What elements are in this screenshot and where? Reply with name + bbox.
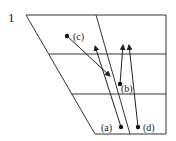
label-d: (d) <box>143 122 155 134</box>
arrow-b <box>120 45 123 84</box>
point-c <box>65 34 69 38</box>
figure-number: 1 <box>8 10 15 25</box>
point-a <box>119 125 123 129</box>
label-a: (a) <box>101 122 112 134</box>
point-d <box>136 125 140 129</box>
label-b: (b) <box>121 83 133 95</box>
diagram-canvas: 1 (c) (b) (a) (d) <box>0 0 176 141</box>
slanted-divider <box>96 15 130 134</box>
trapezoid-outline <box>26 15 166 134</box>
label-c: (c) <box>73 31 84 43</box>
